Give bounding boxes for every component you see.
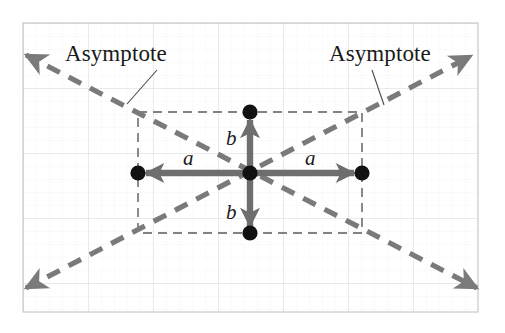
point-vertex-left xyxy=(130,165,145,180)
label-a-left: a xyxy=(183,148,194,169)
point-vertex-right xyxy=(354,165,369,180)
point-covertex-top xyxy=(242,104,257,119)
asymptote-label-left: Asymptote xyxy=(65,42,167,65)
hyperbola-asymptote-figure: Asymptote Asymptote a a b b xyxy=(0,0,505,333)
label-b-top: b xyxy=(226,128,237,149)
point-center xyxy=(242,165,257,180)
label-b-bottom: b xyxy=(226,202,237,223)
asymptote-label-right: Asymptote xyxy=(329,42,431,65)
label-a-right: a xyxy=(305,148,316,169)
point-covertex-bottom xyxy=(242,225,257,240)
